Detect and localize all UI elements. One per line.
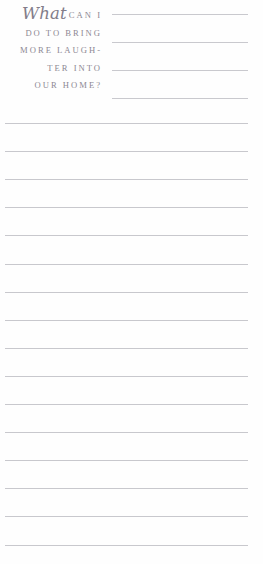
- write-line[interactable]: [5, 292, 248, 293]
- write-line[interactable]: [5, 235, 248, 236]
- write-line[interactable]: [5, 348, 248, 349]
- write-line[interactable]: [5, 151, 248, 152]
- write-line[interactable]: [5, 207, 248, 208]
- write-line[interactable]: [5, 516, 248, 517]
- journal-page: WhatCAN I DO TO BRING MORE LAUGH- TER IN…: [0, 0, 263, 564]
- write-line[interactable]: [5, 545, 248, 546]
- write-line[interactable]: [5, 488, 248, 489]
- write-line[interactable]: [5, 432, 248, 433]
- write-line[interactable]: [5, 264, 248, 265]
- write-line[interactable]: [5, 320, 248, 321]
- write-line[interactable]: [5, 123, 248, 124]
- write-line[interactable]: [5, 376, 248, 377]
- write-line[interactable]: [5, 404, 248, 405]
- writing-rule-group: [0, 0, 263, 564]
- write-line[interactable]: [5, 460, 248, 461]
- write-line[interactable]: [5, 179, 248, 180]
